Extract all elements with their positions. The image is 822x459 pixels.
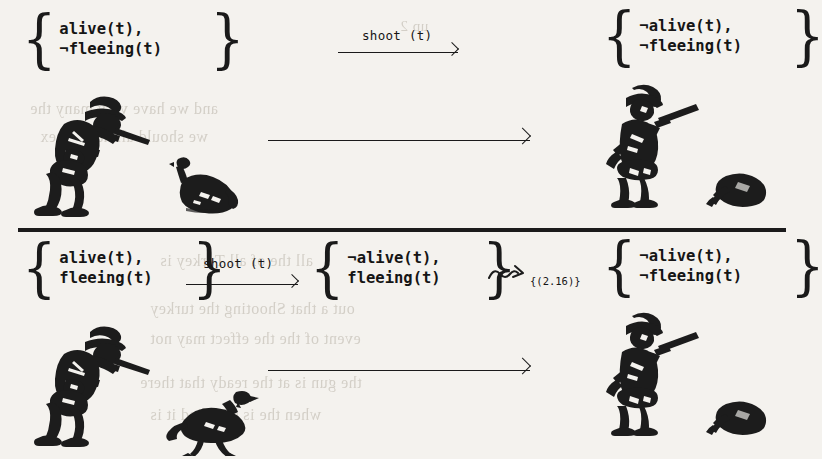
turkey-dead-illustration	[704, 168, 768, 212]
set-literal: ¬alive(t),	[639, 247, 787, 267]
brace-right-icon: }	[210, 13, 244, 67]
set-literal: ¬fleeing(t)	[639, 267, 787, 287]
top-effect-set: { ¬alive(t), ¬fleeing(t) }	[602, 14, 822, 60]
top-precondition-set: { alive(t), ¬fleeing(t) }	[22, 17, 245, 63]
ghost-text-7: event of the the effect may not	[150, 330, 361, 348]
set-literal: alive(t),	[59, 249, 189, 269]
top-scene-arrow	[268, 140, 530, 141]
bottom-action-arrow	[186, 284, 298, 285]
set-literal: fleeing(t)	[347, 269, 479, 289]
top-action-arrow	[338, 52, 458, 53]
brace-left-icon: {	[310, 242, 344, 296]
bottom-precondition-set: { alive(t), fleeing(t) }	[22, 246, 227, 292]
brace-left-icon: {	[22, 13, 56, 67]
leads-to-squiggle-arrow-icon	[487, 262, 531, 292]
turkey-dead-illustration	[704, 396, 768, 440]
bottom-scene-arrow	[268, 370, 530, 371]
set-literal: ¬alive(t),	[639, 17, 787, 37]
bottom-action-label: shoot (t)	[203, 256, 273, 271]
set-literal: alive(t),	[59, 20, 207, 40]
set-literal: ¬fleeing(t)	[59, 40, 207, 60]
section-divider	[18, 228, 786, 232]
turkey-standing-illustration	[168, 152, 240, 214]
set-literal: ¬alive(t),	[347, 249, 479, 269]
brace-left-icon: {	[602, 240, 636, 294]
brace-right-icon: }	[790, 10, 822, 64]
hunter-shouldering-rifle-illustration	[596, 82, 700, 210]
turkey-walking-illustration	[164, 382, 264, 456]
bottom-intermediate-set: { ¬alive(t), fleeing(t) }	[310, 246, 517, 292]
hunter-shouldering-rifle-illustration	[596, 310, 700, 438]
brace-right-icon: }	[790, 240, 822, 294]
bottom-effect-set: { ¬alive(t), ¬fleeing(t) }	[602, 244, 822, 290]
set-literal: fleeing(t)	[59, 269, 189, 289]
set-literal: ¬fleeing(t)	[639, 37, 787, 57]
brace-left-icon: {	[22, 242, 56, 296]
brace-left-icon: {	[602, 10, 636, 64]
hunter-aiming-illustration	[30, 92, 152, 218]
top-action-label: shoot (t)	[362, 28, 432, 43]
rule-reference-label: {(2.16)}	[530, 275, 581, 287]
hunter-aiming-illustration	[30, 322, 152, 448]
